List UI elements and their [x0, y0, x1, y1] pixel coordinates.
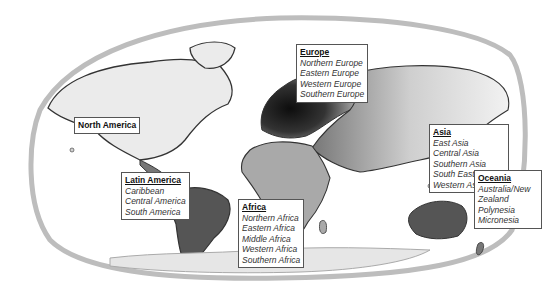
subregion: Eastern Africa	[242, 223, 300, 234]
madagascar-shape	[319, 220, 326, 233]
subregion: Western Europe	[300, 79, 364, 90]
subregion: Eastern Europe	[300, 68, 364, 79]
subregion: Central America	[125, 196, 186, 207]
region-label-latin-america: Latin America Caribbean Central America …	[121, 172, 190, 220]
subregion: Caribbean	[125, 186, 186, 197]
region-title: Oceania	[478, 173, 538, 184]
subregion: Southern Asia	[433, 159, 505, 170]
subregion: South America	[125, 207, 186, 218]
subregion: Northern Europe	[300, 58, 364, 69]
subregion: Polynesia	[478, 205, 538, 216]
subregion: Southern Europe	[300, 89, 364, 100]
subregion: East Asia	[433, 138, 505, 149]
subregion: Central Asia	[433, 148, 505, 159]
region-title: Europe	[300, 47, 364, 58]
region-label-europe: Europe Northern Europe Eastern Europe We…	[296, 44, 368, 103]
region-title: North America	[78, 120, 136, 131]
subregion: Micronesia	[478, 215, 538, 226]
region-title: Asia	[433, 127, 505, 138]
subregion: Middle Africa	[242, 234, 300, 245]
region-title: Africa	[242, 202, 300, 213]
region-label-oceania: Oceania Australia/New Zealand Polynesia …	[474, 170, 542, 229]
region-label-north-america: North America	[74, 117, 140, 134]
subregion: Western Africa	[242, 244, 300, 255]
subregion: Northern Africa	[242, 213, 300, 224]
subregion: Australia/New Zealand	[478, 184, 538, 205]
region-label-africa: Africa Northern Africa Eastern Africa Mi…	[238, 199, 304, 268]
subregion: Southern Africa	[242, 255, 300, 266]
region-title: Latin America	[125, 175, 186, 186]
